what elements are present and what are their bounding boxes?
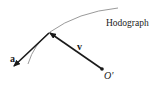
acceleration-label: a bbox=[10, 53, 15, 64]
acceleration-vector bbox=[14, 33, 49, 66]
velocity-label: v bbox=[77, 41, 82, 52]
hodograph-diagram: a v O' Hodograph bbox=[0, 0, 163, 86]
velocity-vector bbox=[50, 33, 102, 69]
hodograph-label: Hodograph bbox=[106, 18, 149, 28]
origin-label: O' bbox=[104, 70, 114, 81]
hodograph-curve bbox=[28, 8, 118, 64]
